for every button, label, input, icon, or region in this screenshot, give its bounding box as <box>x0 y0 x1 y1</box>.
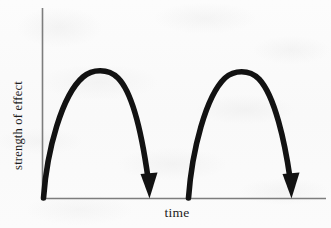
figure-panel: strength of effect time <box>0 0 331 228</box>
arrowhead-first-dose-icon <box>141 173 158 199</box>
curve-second-dose <box>189 72 300 199</box>
curve-second-dose-path <box>189 72 291 198</box>
curve-first-dose-path <box>44 71 149 198</box>
curve-first-dose <box>44 71 158 199</box>
y-axis-label: strength of effect <box>11 71 26 181</box>
x-axis-label: time <box>151 205 203 221</box>
axes <box>42 8 326 199</box>
plot-canvas <box>0 0 331 228</box>
arrowhead-second-dose-icon <box>283 173 300 199</box>
